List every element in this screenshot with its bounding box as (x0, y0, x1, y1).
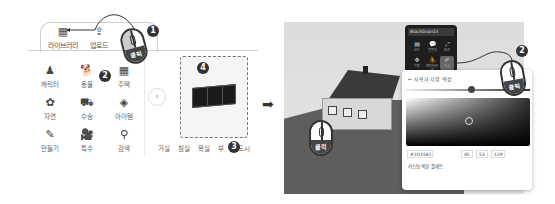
mouse-cable (0, 0, 555, 204)
